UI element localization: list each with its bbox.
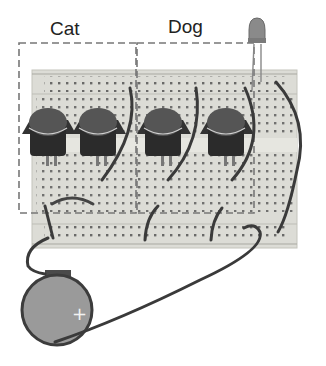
group-label-cat: Cat xyxy=(50,18,80,39)
group-label-dog: Dog xyxy=(168,16,203,37)
circuit-diagram: Cat Dog xyxy=(0,0,326,366)
breadboard xyxy=(32,70,297,248)
battery-plus-sign: + xyxy=(72,303,87,324)
